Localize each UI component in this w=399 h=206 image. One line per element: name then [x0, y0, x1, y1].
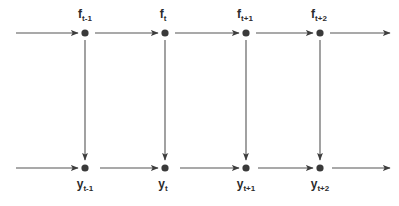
node-f_t+1 — [242, 29, 249, 36]
label-subscript: t — [164, 14, 167, 23]
node-f_t — [161, 29, 168, 36]
state-space-diagram: ft-1ftft+1ft+2yt-1ytyt+1yt+2 — [0, 0, 399, 206]
label-subscript: t+1 — [243, 184, 255, 193]
node-label-y-t+1: yt+1 — [237, 178, 255, 190]
label-subscript: t-1 — [82, 14, 92, 23]
node-label-f-t+1: ft+1 — [237, 8, 253, 20]
label-subscript: t-1 — [83, 184, 93, 193]
node-y_t+1 — [242, 164, 249, 171]
node-label-f-t+2: ft+2 — [311, 8, 327, 20]
node-y_t — [161, 164, 168, 171]
label-subscript: t+2 — [317, 184, 329, 193]
label-base: y — [311, 177, 318, 191]
node-label-f-t: ft — [160, 8, 167, 20]
label-subscript: t+1 — [241, 14, 253, 23]
node-y_t+2 — [316, 164, 323, 171]
label-base: y — [237, 177, 244, 191]
node-f_t-1 — [81, 29, 88, 36]
node-label-y-t-1: yt-1 — [77, 178, 93, 190]
diagram-canvas — [0, 0, 399, 206]
label-subscript: t+2 — [315, 14, 327, 23]
node-f_t+2 — [316, 29, 323, 36]
label-base: y — [158, 177, 165, 191]
node-y_t-1 — [81, 164, 88, 171]
node-label-y-t: yt — [158, 178, 167, 190]
node-label-f-t-1: ft-1 — [78, 8, 92, 20]
label-base: y — [77, 177, 84, 191]
emission-edges — [85, 40, 320, 160]
label-subscript: t — [165, 184, 168, 193]
node-label-y-t+2: yt+2 — [311, 178, 329, 190]
